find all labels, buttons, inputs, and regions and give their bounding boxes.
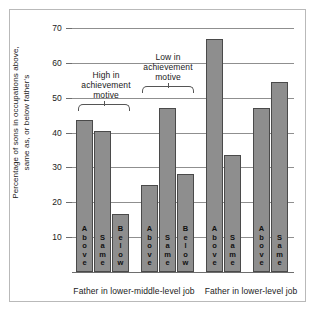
axis-baseline [72, 272, 294, 273]
bar-lmm-high-below[interactable]: Below [112, 214, 129, 272]
annotation-line-1: Low in [130, 52, 206, 62]
group-caption-lower-level: Father in lower-level job [200, 286, 302, 296]
bar-label-same: Same [160, 234, 175, 268]
bar-label-above: Above [254, 225, 269, 268]
brace-high-motive [78, 104, 130, 111]
bar-label-below: Below [178, 225, 193, 268]
y-tick-20: 20 [52, 198, 62, 207]
bar-lmm-low-same[interactable]: Same [159, 108, 176, 272]
annotation-line-3: motive [68, 90, 144, 100]
bar-label-same: Same [272, 234, 287, 268]
y-axis-tick-labels: 70 60 50 40 30 20 10 [28, 28, 62, 282]
annotation-line-3: motive [130, 72, 206, 82]
bar-label-same: Same [225, 234, 240, 268]
y-axis-title-line-1: Percentage of sons in occupations above, [11, 46, 20, 199]
bar-ll-low-same[interactable]: Same [271, 82, 288, 272]
y-tick-30: 30 [52, 163, 62, 172]
y-tick-40: 40 [52, 129, 62, 138]
bar-ll-high-same[interactable]: Same [224, 155, 241, 272]
annotation-low-in-achievement-motive: Low in achievement motive [130, 52, 206, 82]
bar-lmm-high-above[interactable]: Above [76, 120, 93, 272]
bar-label-same: Same [95, 234, 110, 268]
y-tick-10: 10 [52, 233, 62, 242]
y-tick-70: 70 [52, 24, 62, 33]
plot-area: Above Same Below Above Same Below [72, 28, 294, 282]
group-caption-lower-middle-level: Father in lower-middle-level job [62, 286, 206, 296]
bar-lmm-low-above[interactable]: Above [141, 185, 158, 272]
y-tick-50: 50 [52, 94, 62, 103]
bar-label-above: Above [207, 225, 222, 268]
bar-ll-low-above[interactable]: Above [253, 108, 270, 272]
bar-ll-high-above[interactable]: Above [206, 39, 223, 273]
bar-label-below: Below [113, 225, 128, 268]
bar-lmm-high-same[interactable]: Same [94, 131, 111, 272]
y-tick-60: 60 [52, 59, 62, 68]
bar-lmm-low-below[interactable]: Below [177, 174, 194, 272]
bar-label-above: Above [142, 225, 157, 268]
chart-figure: Percentage of sons in occupations above,… [0, 0, 316, 321]
gridline-70 [72, 28, 294, 29]
annotation-line-2: achievement [130, 62, 206, 72]
brace-low-motive [142, 86, 194, 93]
bar-label-above: Above [77, 225, 92, 268]
